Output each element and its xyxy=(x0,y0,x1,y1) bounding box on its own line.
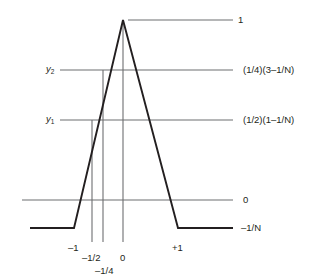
axis-label-zero: 0 xyxy=(243,195,248,205)
xaxis-label-plus-one: +1 xyxy=(172,243,183,253)
axis-label-y2-expression: (1/4)(3–1/N) xyxy=(243,65,294,75)
xaxis-label-zero: 0 xyxy=(120,253,125,263)
function-curve xyxy=(30,20,233,228)
xaxis-label-minus-quarter: –1/4 xyxy=(95,266,114,276)
axis-label-y1: y1 xyxy=(46,114,54,124)
xaxis-label-minus-one: –1 xyxy=(68,243,79,253)
plot-canvas xyxy=(0,0,318,280)
axis-label-y2: y2 xyxy=(46,64,54,74)
axis-label-y1-subscript: 1 xyxy=(51,118,55,125)
axis-label-minus-one-over-n: –1/N xyxy=(241,223,261,233)
xaxis-label-minus-half: –1/2 xyxy=(82,253,101,263)
axis-label-y1-expression: (1/2)(1–1/N) xyxy=(243,115,294,125)
axis-label-one: 1 xyxy=(238,15,243,25)
axis-label-y2-subscript: 2 xyxy=(51,68,55,75)
figure-container: 1 (1/4)(3–1/N) (1/2)(1–1/N) 0 –1/N y2 y1… xyxy=(0,0,318,280)
